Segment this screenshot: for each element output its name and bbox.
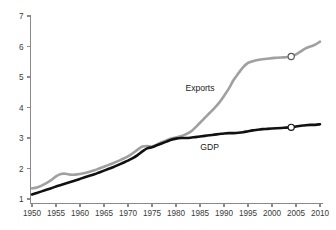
y-axis-group: 1234567 [19, 12, 31, 204]
chart-container: 1234567 19501955196019651970197519801985… [0, 0, 336, 230]
x-tick-label: 1955 [47, 209, 66, 218]
y-axis-tick-labels: 1234567 [19, 12, 24, 204]
series-markers-group [288, 53, 294, 130]
x-tick-label: 1975 [143, 209, 162, 218]
series-line-exports [32, 42, 320, 189]
x-tick-label: 2010 [311, 209, 330, 218]
line-chart: 1234567 19501955196019651970197519801985… [0, 0, 336, 230]
x-tick-label: 2005 [287, 209, 306, 218]
y-tick-label: 5 [19, 73, 24, 82]
y-tick-label: 1 [19, 195, 24, 204]
data-point-marker-gdp [288, 124, 294, 130]
x-tick-label: 1960 [71, 209, 90, 218]
x-tick-label: 1985 [191, 209, 210, 218]
y-tick-label: 2 [19, 165, 24, 174]
x-tick-label: 1980 [167, 209, 186, 218]
series-label-exports: Exports [185, 83, 214, 93]
data-point-marker-exports [288, 53, 294, 59]
y-tick-label: 7 [19, 12, 24, 21]
y-tick-label: 3 [19, 134, 24, 143]
series-line-gdp [32, 124, 320, 194]
x-tick-label: 2000 [263, 209, 282, 218]
x-tick-label: 1970 [119, 209, 138, 218]
series-lines-group [32, 42, 320, 195]
x-axis-group: 1950195519601965197019751980198519901995… [23, 204, 330, 219]
x-tick-label: 1990 [215, 209, 234, 218]
x-tick-label: 1965 [95, 209, 114, 218]
y-tick-label: 6 [19, 43, 24, 52]
x-axis-tick-labels: 1950195519601965197019751980198519901995… [23, 209, 330, 218]
x-tick-label: 1950 [23, 209, 42, 218]
series-label-gdp: GDP [200, 142, 219, 152]
y-tick-label: 4 [19, 104, 24, 113]
x-tick-label: 1995 [239, 209, 258, 218]
series-annotation-labels: ExportsGDP [185, 83, 219, 152]
